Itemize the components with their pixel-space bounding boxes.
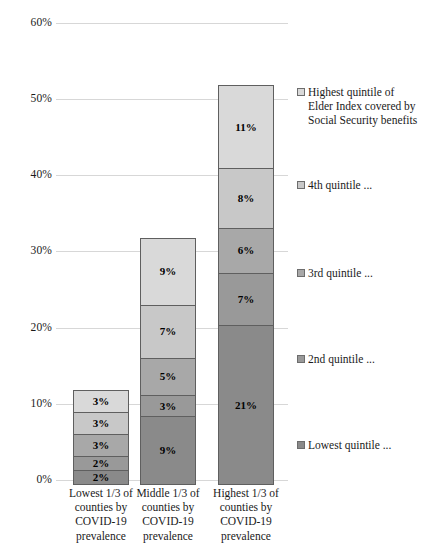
legend-label: 4th quintile ... xyxy=(308,178,372,192)
bar-segment-value-label: 2% xyxy=(93,472,110,483)
y-axis-tick-label: 40% xyxy=(6,169,52,181)
x-axis-label-line: COVID-19 xyxy=(203,514,289,528)
x-axis-label-line: COVID-19 xyxy=(125,514,211,528)
bar-segment-value-label: 7% xyxy=(238,294,255,305)
legend-label: 2nd quintile ... xyxy=(308,352,375,366)
gridline xyxy=(56,23,288,24)
bar-segment[interactable]: 2% xyxy=(73,456,129,471)
bar-segment-value-label: 8% xyxy=(238,193,255,204)
legend-label-line: Lowest quintile ... xyxy=(308,438,391,452)
x-axis-category-label: Highest 1/3 ofcounties byCOVID-19prevale… xyxy=(203,486,289,543)
legend-swatch-icon xyxy=(297,441,305,449)
bar-segment[interactable]: 5% xyxy=(140,358,196,396)
legend-label-line: Social Security benefits xyxy=(308,113,417,127)
legend-label-line: 4th quintile ... xyxy=(308,178,372,192)
bar-segment-value-label: 5% xyxy=(160,371,177,382)
legend-label-line: Highest quintile of xyxy=(308,85,417,99)
bar-segment-value-label: 11% xyxy=(235,122,256,133)
bar-segment[interactable]: 11% xyxy=(218,85,274,169)
bar-segment[interactable]: 9% xyxy=(140,416,196,485)
bar-segment-value-label: 3% xyxy=(160,401,177,412)
legend-swatch-icon xyxy=(297,181,305,189)
bar-segment[interactable]: 7% xyxy=(140,305,196,358)
bar-segment[interactable]: 3% xyxy=(73,390,129,413)
bar-segment-value-label: 3% xyxy=(93,396,110,407)
bar-stack[interactable]: 9%7%5%3%9% xyxy=(140,238,196,485)
bar-segment-value-label: 6% xyxy=(238,245,255,256)
bar-stack[interactable]: 11%8%6%7%21% xyxy=(218,85,274,485)
legend-label-line: 3rd quintile ... xyxy=(308,266,373,280)
legend-label: Highest quintile ofElder Index covered b… xyxy=(308,85,417,128)
y-axis-tick-label: 50% xyxy=(6,93,52,105)
legend-entry[interactable]: 3rd quintile ... xyxy=(297,266,434,280)
y-axis: 60%50%40%30%20%10%0% xyxy=(0,0,52,548)
legend-entry[interactable]: Lowest quintile ... xyxy=(297,438,434,452)
bar-segment[interactable]: 3% xyxy=(73,412,129,435)
y-axis-tick-label: 30% xyxy=(6,245,52,257)
x-axis-label-line: counties by xyxy=(125,500,211,514)
y-axis-tick-label: 60% xyxy=(6,17,52,29)
legend-entry[interactable]: 4th quintile ... xyxy=(297,178,434,192)
bar-segment-value-label: 2% xyxy=(93,458,110,469)
x-axis-label-line: Highest 1/3 of xyxy=(203,486,289,500)
legend-label: Lowest quintile ... xyxy=(308,438,391,452)
bar-segment-value-label: 7% xyxy=(160,326,177,337)
x-axis-label-line: prevalence xyxy=(203,529,289,543)
bar-segment[interactable]: 9% xyxy=(140,238,196,307)
y-axis-tick-label: 10% xyxy=(6,398,52,410)
legend-swatch-icon xyxy=(297,88,305,96)
bar-segment[interactable]: 8% xyxy=(218,168,274,229)
stacked-bar-chart: 60%50%40%30%20%10%0% 3%3%3%2%2%9%7%5%3%9… xyxy=(0,0,434,548)
legend-swatch-icon xyxy=(297,355,305,363)
x-axis-label-line: prevalence xyxy=(125,529,211,543)
bar-segment[interactable]: 21% xyxy=(218,325,274,485)
bar-segment[interactable]: 3% xyxy=(73,434,129,457)
bar-segment-value-label: 3% xyxy=(93,440,110,451)
bar-segment-value-label: 9% xyxy=(160,266,177,277)
y-axis-tick-label: 0% xyxy=(6,474,52,486)
bar-segment[interactable]: 2% xyxy=(73,470,129,485)
bar-segment-value-label: 21% xyxy=(235,400,257,411)
bar-segment[interactable]: 3% xyxy=(140,395,196,418)
legend-entry[interactable]: Highest quintile ofElder Index covered b… xyxy=(297,85,434,128)
x-axis-label-line: counties by xyxy=(203,500,289,514)
bar-stack[interactable]: 3%3%3%2%2% xyxy=(73,390,129,485)
x-axis-category-label: Middle 1/3 ofcounties byCOVID-19prevalen… xyxy=(125,486,211,543)
bar-segment-value-label: 3% xyxy=(93,418,110,429)
legend-label-line: Elder Index covered by xyxy=(308,99,417,113)
bar-segment-value-label: 9% xyxy=(160,445,177,456)
chart-legend: Highest quintile ofElder Index covered b… xyxy=(297,0,434,548)
y-axis-tick-label: 20% xyxy=(6,322,52,334)
bar-segment[interactable]: 6% xyxy=(218,228,274,274)
legend-label-line: 2nd quintile ... xyxy=(308,352,375,366)
legend-label: 3rd quintile ... xyxy=(308,266,373,280)
x-axis-label-line: Middle 1/3 of xyxy=(125,486,211,500)
plot-area: 3%3%3%2%2%9%7%5%3%9%11%8%6%7%21% xyxy=(56,18,288,485)
legend-entry[interactable]: 2nd quintile ... xyxy=(297,352,434,366)
bar-segment[interactable]: 7% xyxy=(218,273,274,326)
legend-swatch-icon xyxy=(297,269,305,277)
